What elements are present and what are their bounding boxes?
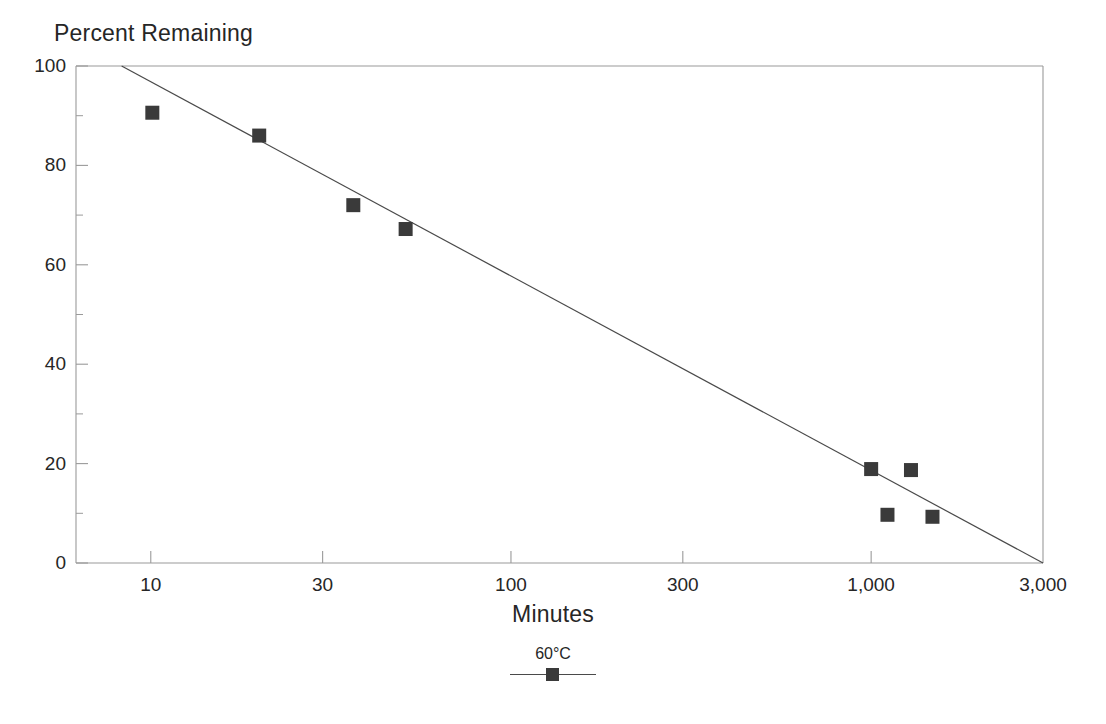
data-marker [145, 106, 159, 120]
y-tick-label: 80 [6, 154, 66, 176]
y-tick-label: 40 [6, 353, 66, 375]
x-tick-label: 300 [638, 574, 728, 596]
y-tick-label: 100 [6, 55, 66, 77]
x-tick-label: 30 [278, 574, 368, 596]
x-axis-ticks [151, 551, 871, 563]
percent-remaining-chart: Percent Remaining 020406080100 103010030… [0, 0, 1106, 724]
legend-square-marker [546, 668, 559, 681]
plot-frame [76, 66, 1043, 563]
x-tick-label: 100 [466, 574, 556, 596]
y-tick-label: 60 [6, 254, 66, 276]
data-marker [399, 222, 413, 236]
data-marker [346, 198, 360, 212]
x-tick-label: 3,000 [998, 574, 1088, 596]
y-tick-label: 0 [6, 552, 66, 574]
data-marker [904, 463, 918, 477]
x-tick-label: 10 [106, 574, 196, 596]
data-marker [880, 508, 894, 522]
data-marker [925, 510, 939, 524]
legend-label-60c: 60°C [0, 645, 1106, 663]
data-markers [145, 106, 939, 524]
data-marker [864, 462, 878, 476]
y-axis-ticks [76, 66, 88, 563]
x-axis-title: Minutes [0, 601, 1106, 628]
y-tick-label: 20 [6, 453, 66, 475]
x-tick-label: 1,000 [826, 574, 916, 596]
chart-page: Percent Remaining 020406080100 103010030… [0, 0, 1106, 724]
chart-legend: 60°C [0, 645, 1106, 684]
legend-sample [510, 666, 596, 684]
data-marker [252, 129, 266, 143]
